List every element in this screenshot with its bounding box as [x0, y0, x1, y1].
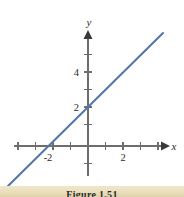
y-axis-arrowhead	[84, 30, 93, 39]
coordinate-plot: -2 2 2 4 x y	[0, 0, 184, 197]
x-tick-label--2: -2	[44, 152, 53, 163]
y-tick-label-4: 4	[74, 67, 80, 78]
x-axis-arrowhead	[161, 142, 170, 151]
x-tick-label-2: 2	[120, 152, 125, 163]
figure-caption: Figure 1.51	[0, 189, 184, 197]
figure-container: -2 2 2 4 x y Figure 1.51	[0, 0, 184, 197]
figure-caption-bar: Figure 1.51	[0, 186, 184, 197]
x-axis-label: x	[171, 140, 177, 152]
y-axis-label: y	[86, 16, 92, 28]
y-tick-label-2: 2	[74, 102, 79, 113]
